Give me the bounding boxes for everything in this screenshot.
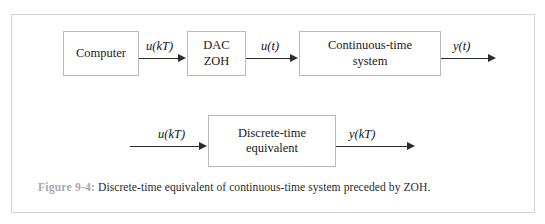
block-continuous-time-label-line-1: Continuous-time <box>328 38 412 53</box>
figure-caption-text: Discrete-time equivalent of continuous-t… <box>95 181 430 194</box>
signal-label-y-kT: y(kT) <box>349 127 375 142</box>
arrow-head <box>178 54 186 62</box>
signal-label-u-kT-bottom: u(kT) <box>158 127 185 142</box>
block-computer-label-line-1: Computer <box>76 46 126 61</box>
block-continuous-time-label-line-2: system <box>353 54 388 69</box>
block-discrete-time-label-line-1: Discrete-time <box>238 126 306 141</box>
clipped-text-sliver: · · · · · · · · · · · · · · · · · <box>0 0 545 3</box>
arrow-head <box>407 142 415 150</box>
arrow-head <box>488 54 496 62</box>
block-dac-zoh: DAC ZOH <box>187 31 246 76</box>
arrow-shaft <box>130 146 200 147</box>
block-dac-zoh-label-line-1: DAC <box>203 38 229 53</box>
block-computer: Computer <box>63 31 139 76</box>
figure-caption: Figure 9-4: Discrete-time equivalent of … <box>38 181 430 194</box>
block-continuous-time-system: Continuous-time system <box>299 31 441 76</box>
arrow-shaft <box>441 58 489 59</box>
arrow-head <box>290 54 298 62</box>
arrow-shaft <box>139 58 179 59</box>
arrow-shaft <box>336 146 408 147</box>
signal-label-u-kT-top: u(kT) <box>146 39 173 54</box>
block-dac-zoh-label-line-2: ZOH <box>204 54 230 69</box>
figure-page: · · · · · · · · · · · · · · · · · Comput… <box>0 0 545 224</box>
block-discrete-time-equivalent: Discrete-time equivalent <box>208 115 336 167</box>
arrow-head <box>199 142 207 150</box>
signal-label-y-t: y(t) <box>453 39 470 54</box>
signal-label-u-t: u(t) <box>261 39 279 54</box>
figure-number: Figure 9-4: <box>38 181 95 194</box>
block-discrete-time-label-line-2: equivalent <box>246 141 298 156</box>
arrow-shaft <box>246 58 291 59</box>
